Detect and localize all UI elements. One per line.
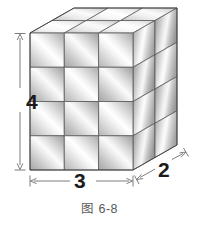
dimension-height	[15, 34, 26, 171]
figure-container: 4 3 2 图 6-8	[0, 0, 199, 227]
figure-caption: 图 6-8	[0, 198, 199, 217]
cube-solid-illustration	[0, 0, 199, 227]
solid-front-face	[30, 33, 133, 170]
dimension-label-width: 3	[74, 170, 86, 191]
dimension-label-height: 4	[26, 91, 38, 112]
dimension-label-depth: 2	[158, 159, 170, 180]
solid-right-face	[133, 8, 177, 170]
